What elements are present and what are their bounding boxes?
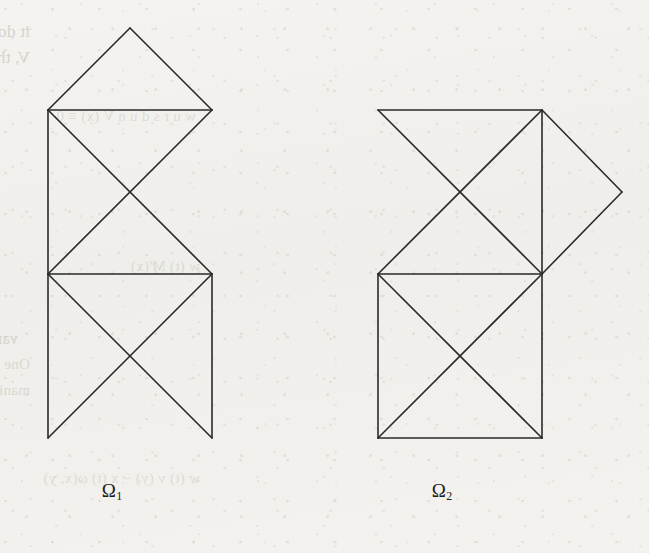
figure-label-omega-1-glyph: Ω <box>102 480 116 501</box>
figure-label-omega-1: Ω1 <box>72 480 152 504</box>
figure-label-omega-2-glyph: Ω <box>432 480 446 501</box>
figure-omega-2 <box>378 110 622 438</box>
scanned-page: it does a bounded value the and its mapp… <box>0 0 649 553</box>
figure-omega-1 <box>48 28 212 438</box>
figure-label-omega-2: Ω2 <box>402 480 482 504</box>
figures-canvas <box>0 0 649 553</box>
figure-label-omega-1-subscript: 1 <box>116 489 123 503</box>
figure-edge <box>130 28 212 110</box>
figure-edge <box>542 110 622 192</box>
figure-edge <box>542 192 622 274</box>
figure-label-omega-2-subscript: 2 <box>446 489 453 503</box>
figure-edge <box>48 28 130 110</box>
